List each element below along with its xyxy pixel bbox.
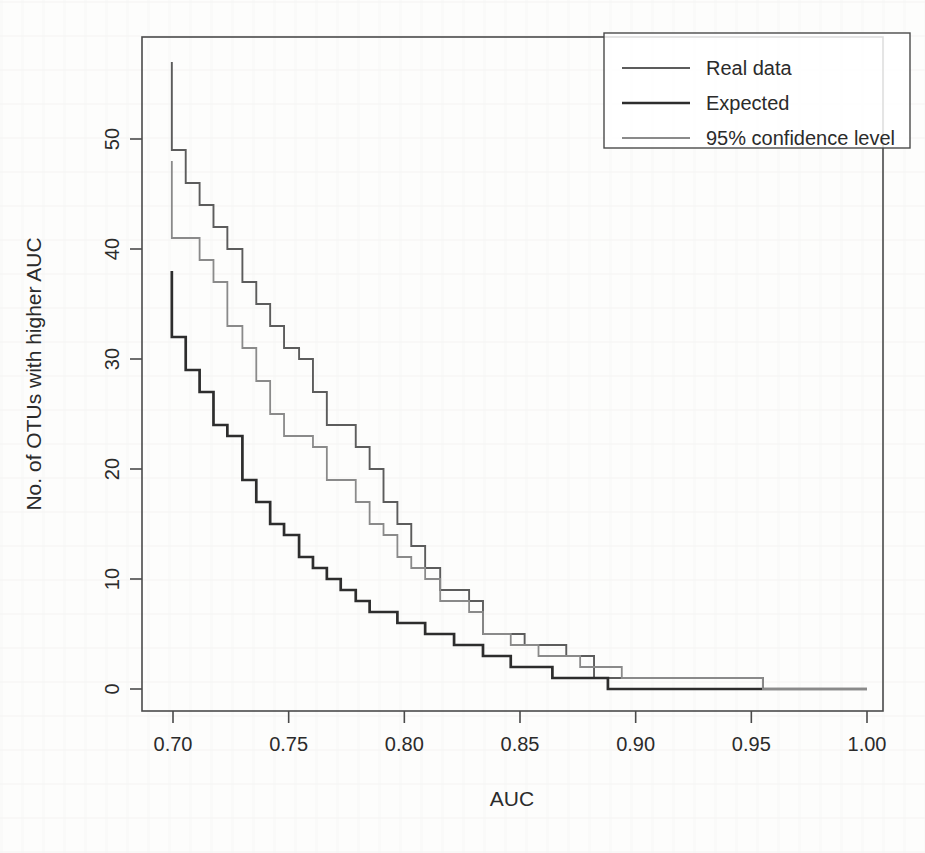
chart-legend: Real dataExpected95% confidence level (604, 33, 910, 149)
y-tick-label: 40 (101, 238, 123, 260)
series-line-expected (172, 271, 867, 689)
y-tick-label: 0 (101, 683, 123, 694)
legend-label: Expected (706, 92, 789, 114)
y-axis-title: No. of OTUs with higher AUC (22, 237, 45, 510)
legend-label: 95% confidence level (706, 127, 895, 149)
x-axis-ticks: 0.700.750.800.850.900.951.00 (154, 711, 887, 755)
x-tick-label: 0.70 (154, 733, 193, 755)
auc-step-chart: 0.700.750.800.850.900.951.00 01020304050… (0, 0, 925, 853)
series-line-real-data (172, 62, 867, 689)
figure-page: 0.700.750.800.850.900.951.00 01020304050… (0, 0, 925, 853)
x-tick-label: 0.80 (385, 733, 424, 755)
y-tick-label: 30 (101, 348, 123, 370)
x-tick-label: 1.00 (848, 733, 887, 755)
x-tick-label: 0.75 (269, 733, 308, 755)
x-axis-title: AUC (490, 787, 534, 810)
y-tick-label: 10 (101, 568, 123, 590)
x-tick-label: 0.95 (732, 733, 771, 755)
x-tick-label: 0.85 (501, 733, 540, 755)
y-tick-label: 20 (101, 458, 123, 480)
x-tick-label: 0.90 (616, 733, 655, 755)
legend-label: Real data (706, 57, 792, 79)
series-group (172, 62, 867, 689)
y-axis-ticks: 01020304050 (101, 128, 142, 695)
series-line-95-confidence-level (172, 161, 867, 689)
y-tick-label: 50 (101, 128, 123, 150)
